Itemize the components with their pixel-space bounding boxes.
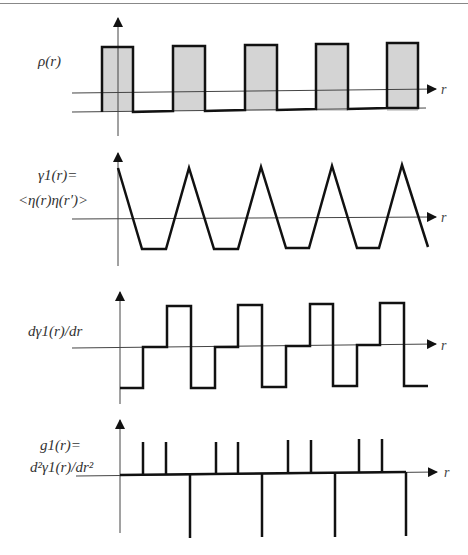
correlation-curve bbox=[118, 165, 428, 249]
density-pulses bbox=[102, 43, 418, 111]
r-axis-label: r bbox=[441, 82, 447, 97]
g1-label-line1: g1(r)= bbox=[40, 437, 81, 454]
panel-density: ρ(r) r bbox=[37, 18, 447, 136]
panel-correlation: γ1(r)= <η(r)η(r′)> r bbox=[18, 153, 447, 266]
g1-label-line2: d²γ1(r)/dr² bbox=[30, 459, 94, 476]
up-spikes bbox=[143, 439, 382, 475]
r-axis-label: r bbox=[444, 465, 450, 480]
density-label: ρ(r) bbox=[37, 53, 61, 70]
correlation-label-line2: <η(r)η(r′)> bbox=[18, 192, 88, 209]
r-axis-label: r bbox=[441, 338, 447, 353]
derivative-label: dγ1(r)/dr bbox=[28, 323, 82, 340]
r-axis-label: r bbox=[441, 210, 447, 225]
panel-first-derivative: dγ1(r)/dr r bbox=[28, 292, 447, 404]
correlation-label-line1: γ1(r)= bbox=[38, 167, 77, 184]
figure: ρ(r) r γ1(r)= <η(r)η(r′)> r dγ1(r)/dr r … bbox=[0, 0, 468, 555]
r-axis-arrow-icon bbox=[72, 344, 436, 348]
down-spikes bbox=[190, 472, 406, 538]
panel-second-derivative: g1(r)= d²γ1(r)/dr² r bbox=[30, 420, 450, 538]
r-axis-arrow-icon bbox=[72, 217, 436, 219]
